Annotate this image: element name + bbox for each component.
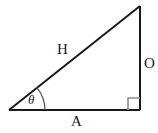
trigonometry-triangle-figure: H O A θ [0,0,158,133]
right-angle-marker-icon [128,98,140,110]
angle-arc [37,87,46,110]
hypotenuse-label: H [57,42,68,57]
theta-angle-label: θ [28,93,34,106]
opposite-side-label: O [144,56,155,71]
adjacent-side-label: A [71,114,82,129]
